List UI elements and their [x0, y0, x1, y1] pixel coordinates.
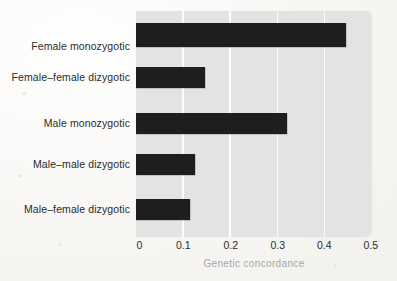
x-axis-title: Genetic concordance — [136, 258, 372, 269]
y-axis-label-female-female-dizygotic: Female–female dizygotic — [0, 71, 130, 83]
bar-male-male-dizygotic — [136, 154, 195, 175]
x-tick-0.2: 0.2 — [223, 239, 238, 251]
y-axis-label-male-female-dizygotic: Male–female dizygotic — [0, 203, 130, 215]
page-speckle — [18, 174, 22, 177]
bar-female-female-dizygotic — [136, 67, 205, 88]
x-tick-0.5: 0.5 — [363, 239, 378, 251]
y-axis-label-female-monozygotic: Female monozygotic — [0, 40, 130, 52]
y-axis-category-labels: Female monozygotic Female–female dizygot… — [0, 11, 130, 237]
y-axis-label-male-male-dizygotic: Male–male dizygotic — [0, 158, 130, 170]
bar-female-monozygotic — [136, 23, 346, 47]
page-speckle — [22, 92, 27, 95]
x-tick-0: 0 — [136, 239, 142, 251]
bar-male-monozygotic — [136, 113, 287, 134]
page-speckle — [58, 243, 62, 246]
page-speckle — [333, 264, 337, 267]
x-tick-0.1: 0.1 — [176, 239, 191, 251]
x-tick-0.3: 0.3 — [270, 239, 285, 251]
plot-area — [136, 11, 372, 237]
bar-male-female-dizygotic — [136, 199, 190, 220]
bar-chart-figure: Female monozygotic Female–female dizygot… — [0, 0, 397, 281]
y-axis-label-male-monozygotic: Male monozygotic — [0, 117, 130, 129]
x-tick-0.4: 0.4 — [317, 239, 332, 251]
x-axis-tick-labels: 0 0.1 0.2 0.3 0.4 0.5 — [136, 239, 372, 255]
